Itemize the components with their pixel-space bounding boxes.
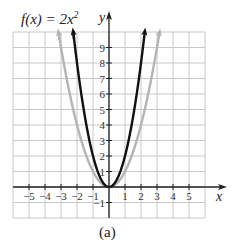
chart-caption: (a) [99,224,116,241]
x-tick-label: 3 [154,190,160,202]
y-tick-label: 5 [100,104,106,116]
x-tick-label: −5 [23,190,35,202]
x-tick-label: 2 [138,190,144,202]
y-tick-label: 9 [100,42,106,54]
y-tick-label: 2 [100,150,106,162]
chart-title: f(x) = 2x2 [21,9,79,28]
y-tick-label: 6 [100,88,106,100]
y-tick-label: 1 [100,166,106,178]
y-tick-label: −1 [93,197,105,209]
y-tick-label: 8 [100,57,106,69]
x-axis-label: x [215,189,223,204]
y-tick-label: 4 [100,119,106,131]
x-tick-label: 4 [170,190,176,202]
parabola-chart: −5−4−3−2−112345−1123456789 f(x) = 2x2 y … [0,0,238,249]
x-tick-label: −3 [55,190,67,202]
x-tick-label: 5 [186,190,192,202]
x-tick-label: −4 [39,190,51,202]
x-tick-label: 1 [122,190,128,202]
y-axis-label: y [97,10,106,25]
y-tick-label: 7 [100,73,106,85]
y-tick-label: 3 [100,135,106,147]
curve-arrowhead [58,32,59,40]
curve-arrowhead [73,31,74,39]
x-tick-label: −2 [71,190,83,202]
